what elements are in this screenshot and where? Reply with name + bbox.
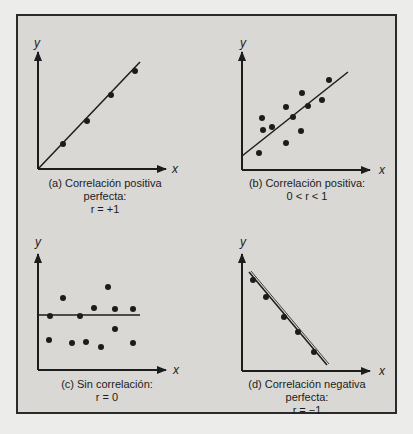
caption-a-line1: (a) Correlación positiva xyxy=(20,177,190,190)
fit-line xyxy=(38,62,140,169)
x-label-a: x xyxy=(171,162,179,176)
caption-d: (d) Correlación negativa perfecta: r = −… xyxy=(222,378,392,417)
y-label-d: y xyxy=(239,235,247,249)
caption-c-line1: (c) Sin correlación: xyxy=(22,378,192,391)
panel-a-plot xyxy=(38,52,166,169)
x-label-b: x xyxy=(378,163,386,177)
caption-d-line1: (d) Correlación negativa xyxy=(222,378,392,391)
y-label-b: y xyxy=(239,36,247,50)
x-label-c: x xyxy=(172,363,180,377)
fit-line xyxy=(242,72,348,156)
panel-b-plot xyxy=(242,52,370,170)
y-label-a: y xyxy=(33,36,41,50)
panel-c-plot xyxy=(38,254,166,370)
panel-d-plot xyxy=(242,254,370,371)
correlation-plots: y x y x y x y x xyxy=(0,0,413,434)
caption-c: (c) Sin correlación: r = 0 xyxy=(22,378,192,404)
caption-b-line1: (b) Correlación positiva: xyxy=(222,177,392,190)
y-label-c: y xyxy=(34,235,42,249)
caption-d-line3: r = −1 xyxy=(222,404,392,417)
caption-b: (b) Correlación positiva: 0 < r < 1 xyxy=(222,177,392,203)
x-label-d: x xyxy=(378,364,386,378)
caption-d-line2: perfecta: xyxy=(222,391,392,404)
caption-b-line2: 0 < r < 1 xyxy=(222,190,392,203)
caption-a: (a) Correlación positiva perfecta: r = +… xyxy=(20,177,190,216)
caption-c-line2: r = 0 xyxy=(22,391,192,404)
caption-a-line3: r = +1 xyxy=(20,203,190,216)
caption-a-line2: perfecta: xyxy=(20,190,190,203)
